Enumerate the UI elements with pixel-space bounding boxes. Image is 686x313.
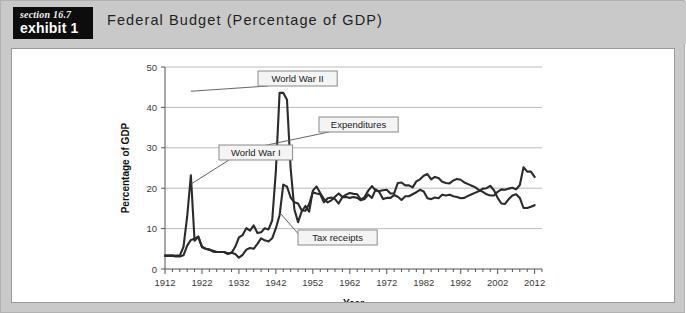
- annotation-world-war-ii: World War II: [191, 71, 337, 91]
- x-axis-title: Year: [343, 298, 364, 302]
- x-tick-label: 1972: [376, 277, 397, 288]
- exhibit-header: section 16.7 exhibit 1 Federal Budget (P…: [1, 1, 686, 44]
- federal-budget-line-chart: 01020304050 1912192219321942195219621972…: [12, 49, 674, 302]
- chart-panel: 01020304050 1912192219321942195219621972…: [11, 48, 675, 303]
- x-axis-tick-labels: 1912192219321942195219621972198219922002…: [154, 277, 545, 288]
- x-tick-label: 2012: [524, 277, 545, 288]
- exhibit-label: exhibit 1: [20, 20, 87, 36]
- x-tick-label: 1922: [191, 277, 212, 288]
- annotation-label: World War I: [231, 147, 281, 158]
- annotation-label: World War II: [271, 73, 323, 84]
- x-tick-label: 1962: [339, 277, 360, 288]
- x-tick-label: 2002: [487, 277, 508, 288]
- series-line-tax-receipts: [165, 185, 535, 258]
- y-tick-label: 40: [146, 102, 157, 113]
- y-axis-tick-labels: 01020304050: [146, 62, 157, 275]
- annotation-expenditures: Expenditures: [254, 117, 398, 148]
- section-label: section 16.7: [20, 9, 87, 20]
- x-tick-label: 1932: [228, 277, 249, 288]
- x-tick-label: 1952: [302, 277, 323, 288]
- y-tick-label: 30: [146, 142, 157, 153]
- x-tick-label: 1992: [450, 277, 471, 288]
- page-title: Federal Budget (Percentage of GDP): [107, 12, 383, 28]
- y-axis-title: Percentage of GDP: [120, 122, 131, 213]
- y-tick-label: 20: [146, 183, 157, 194]
- y-tick-label: 0: [152, 264, 157, 275]
- chart-annotations: World War IIExpendituresWorld War ITax r…: [191, 71, 398, 245]
- annotation-world-war-i: World War I: [191, 145, 293, 184]
- y-tick-label: 50: [146, 62, 157, 73]
- annotation-label: Tax receipts: [312, 232, 363, 243]
- x-tick-label: 1942: [265, 277, 286, 288]
- x-tick-label: 1912: [154, 277, 175, 288]
- y-tick-label: 10: [146, 223, 157, 234]
- x-tick-label: 1982: [413, 277, 434, 288]
- exhibit-number-badge: section 16.7 exhibit 1: [13, 7, 93, 39]
- annotation-label: Expenditures: [331, 119, 387, 130]
